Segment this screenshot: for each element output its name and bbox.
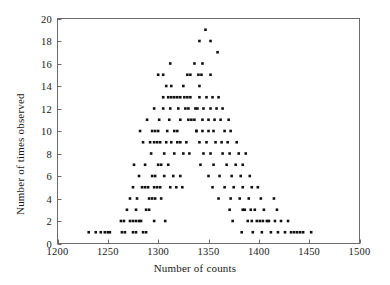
data-point (142, 231, 145, 234)
data-point (151, 175, 154, 178)
data-point (262, 220, 265, 223)
data-point (172, 175, 175, 178)
data-point (157, 130, 160, 133)
data-point (270, 231, 273, 234)
data-point (215, 107, 218, 110)
data-point (194, 107, 197, 110)
data-point (164, 220, 167, 223)
y-tick-label: 10 (26, 126, 52, 137)
data-point (163, 175, 166, 178)
data-point (229, 197, 232, 200)
data-point (179, 96, 182, 99)
data-point (276, 208, 279, 211)
data-point (156, 186, 159, 189)
data-point (173, 152, 176, 155)
y-tick-label: 8 (26, 148, 52, 159)
data-point (186, 73, 189, 76)
data-point (214, 141, 217, 144)
data-point (140, 220, 143, 223)
data-point (243, 208, 246, 211)
data-point (177, 107, 180, 110)
data-point (166, 130, 169, 133)
data-point (287, 220, 290, 223)
data-point (170, 141, 173, 144)
data-point (212, 163, 215, 166)
data-point (241, 186, 244, 189)
data-point (169, 107, 172, 110)
data-point (198, 141, 201, 144)
data-point (157, 163, 160, 166)
data-point (187, 118, 190, 121)
data-point (187, 107, 190, 110)
data-point (193, 118, 196, 121)
data-point (138, 175, 141, 178)
data-point (221, 152, 224, 155)
data-point (211, 186, 214, 189)
data-point (169, 186, 172, 189)
data-point (184, 107, 187, 110)
x-tick-label: 1300 (147, 246, 169, 257)
data-point (195, 130, 198, 133)
data-point (212, 130, 215, 133)
data-point (254, 208, 257, 211)
data-point (139, 130, 142, 133)
data-point (121, 231, 124, 234)
data-point (151, 197, 154, 200)
data-point (160, 163, 163, 166)
data-point (209, 107, 212, 110)
data-point (266, 220, 269, 223)
data-point (179, 141, 182, 144)
data-point (144, 163, 147, 166)
data-point (181, 186, 184, 189)
y-tick-label: 2 (26, 216, 52, 227)
data-point (176, 96, 179, 99)
data-point (193, 62, 196, 65)
data-point (201, 130, 204, 133)
data-point (205, 96, 208, 99)
data-point (217, 96, 220, 99)
data-point (216, 51, 219, 54)
data-point (165, 85, 168, 88)
data-point (173, 96, 176, 99)
data-point (205, 141, 208, 144)
data-point (260, 197, 263, 200)
y-tick-label: 6 (26, 171, 52, 182)
data-point (251, 231, 254, 234)
data-point (261, 231, 264, 234)
data-point (135, 208, 138, 211)
data-point (198, 96, 201, 99)
data-point (132, 231, 135, 234)
data-point (211, 96, 214, 99)
data-point (234, 163, 237, 166)
x-tick-label: 1500 (349, 246, 371, 257)
data-point (146, 118, 149, 121)
y-tick-label: 12 (26, 103, 52, 114)
x-tick-label: 1250 (97, 246, 119, 257)
data-point (197, 73, 200, 76)
data-point (274, 220, 277, 223)
data-point (190, 118, 193, 121)
data-point (154, 130, 157, 133)
data-point (167, 96, 170, 99)
data-point (290, 231, 293, 234)
data-point (145, 231, 148, 234)
data-point (153, 220, 156, 223)
data-point (179, 118, 182, 121)
data-point (277, 231, 280, 234)
data-point (168, 118, 171, 121)
data-point (293, 231, 296, 234)
data-point (241, 163, 244, 166)
data-point (163, 152, 166, 155)
data-point (132, 186, 135, 189)
data-point (94, 231, 97, 234)
data-point (232, 186, 235, 189)
data-point (162, 107, 165, 110)
data-point (124, 231, 127, 234)
data-point (141, 186, 144, 189)
data-point (225, 163, 228, 166)
data-point (123, 220, 126, 223)
y-tick-label: 4 (26, 193, 52, 204)
x-tick-label: 1450 (298, 246, 320, 257)
data-point (142, 141, 145, 144)
data-point (182, 85, 185, 88)
